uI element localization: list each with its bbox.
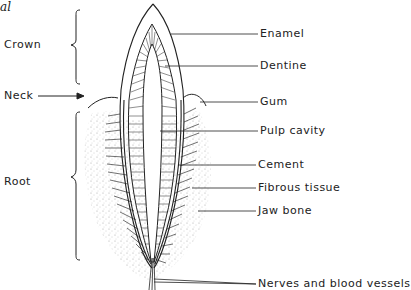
part-label-nerves-blood-vessels: Nerves and blood vessels xyxy=(258,278,411,290)
region-label-crown: Crown xyxy=(4,39,41,51)
part-label-pulp-cavity: Pulp cavity xyxy=(260,125,326,137)
part-label-jaw-bone: Jaw bone xyxy=(258,205,312,217)
region-label-root: Root xyxy=(4,176,31,188)
part-label-enamel: Enamel xyxy=(260,28,304,40)
region-braces xyxy=(71,10,80,260)
part-label-fibrous-tissue: Fibrous tissue xyxy=(258,182,340,194)
crown-brace xyxy=(71,10,80,84)
part-label-gum: Gum xyxy=(260,96,288,108)
part-label-cement: Cement xyxy=(258,159,304,171)
neck-arrow xyxy=(38,93,84,99)
root-brace xyxy=(71,112,80,260)
part-label-dentine: Dentine xyxy=(260,60,307,72)
region-label-neck: Neck xyxy=(4,90,33,102)
